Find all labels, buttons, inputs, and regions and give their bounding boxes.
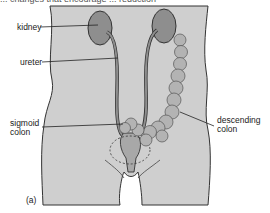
label-kidney: kidney	[17, 23, 42, 32]
left-kidney	[88, 11, 112, 45]
torso-outline	[42, 6, 211, 205]
panel-label: (a)	[26, 196, 36, 205]
label-ureter: ureter	[20, 58, 42, 67]
right-kidney	[152, 9, 176, 43]
label-sigmoid-colon-2: colon	[10, 128, 30, 137]
label-descending-colon-2: colon	[217, 125, 237, 134]
